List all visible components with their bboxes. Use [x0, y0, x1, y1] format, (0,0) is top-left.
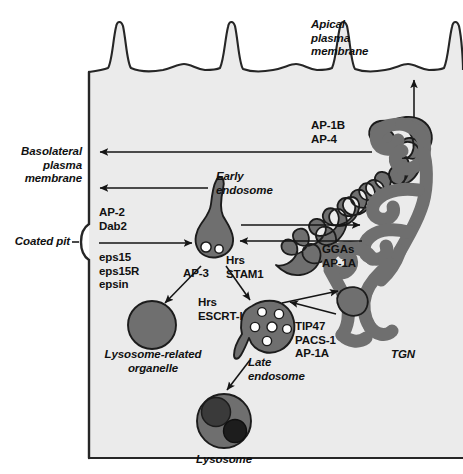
- early-endosome-vesicle: [215, 245, 223, 253]
- tgn-to-basolateral-adaptors: AP-1B AP-4: [311, 119, 345, 146]
- figure-canvas: Apical plasma membrane Basolateral plasm…: [0, 0, 463, 474]
- early-endosome-vesicle: [201, 242, 211, 252]
- late-sorting-adaptors: Hrs ESCRT-I: [198, 296, 243, 323]
- late-to-tgn-adaptors: TIP47 PACS-1 AP-1A: [295, 320, 336, 361]
- early-to-lro-adaptor: AP-3: [183, 267, 209, 281]
- lysosome-label: Lysosome: [182, 453, 266, 467]
- late-endosome-vesicle: [262, 336, 271, 345]
- coated-pit-lower-adaptors: eps15 eps15R epsin: [99, 251, 139, 292]
- coated-pit-label: Coated pit: [0, 235, 70, 249]
- late-endosome-label: Late endosome: [248, 356, 305, 383]
- tgn-label: TGN: [391, 348, 415, 362]
- lysosome-related-organelle-shape: [128, 301, 176, 349]
- late-endosome-vesicle: [283, 325, 292, 334]
- late-endosome-vesicle: [267, 322, 277, 332]
- apical-plasma-membrane-label: Apical plasma membrane: [311, 18, 368, 59]
- tgn-derived-vesicle: [337, 287, 368, 316]
- basolateral-plasma-membrane-label: Basolateral plasma membrane: [0, 145, 82, 186]
- early-to-late-adaptors: Hrs STAM1: [226, 254, 264, 281]
- endosome-tgn-adaptors: GGAs AP-1A: [322, 243, 356, 270]
- basolateral-plasma-membrane-line: [81, 72, 89, 458]
- early-endosome-label: Early endosome: [216, 170, 273, 197]
- coated-pit-upper-adaptors: AP-2 Dab2: [99, 206, 127, 233]
- late-endosome-vesicle: [274, 309, 283, 318]
- lysosome-inclusion-small: [224, 420, 247, 443]
- apical-plasma-membrane-line: [89, 22, 463, 72]
- late-endosome-vesicle: [258, 308, 267, 317]
- late-endosome-vesicle: [250, 322, 259, 331]
- lysosome-related-organelle-label: Lysosome-related organelle: [98, 348, 208, 375]
- lysosome-organelle: [197, 394, 251, 448]
- lysosome-inclusion-large: [202, 398, 231, 427]
